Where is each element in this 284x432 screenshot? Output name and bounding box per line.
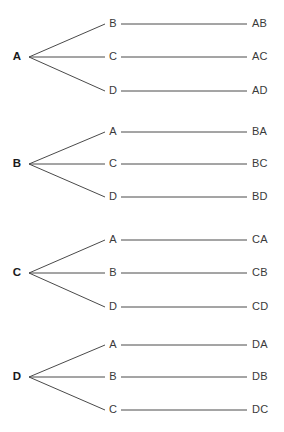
branch-line-b-d	[29, 164, 105, 197]
mid-node-ad: D	[103, 85, 123, 96]
mid-node-db: B	[103, 371, 123, 382]
mid-node-ba: A	[103, 126, 123, 137]
mid-node-da: A	[103, 339, 123, 350]
leaf-label-db: DB	[252, 371, 268, 382]
leaf-label-cd: CD	[252, 301, 268, 312]
leaf-label-ca: CA	[252, 234, 268, 245]
root-node-a: A	[0, 51, 21, 62]
mid-node-ab: B	[103, 18, 123, 29]
mid-node-bd: D	[103, 191, 123, 202]
tree-diagram: ABABCACDADBABACBCDBDCACABCBDCDDADABDBCDC	[0, 0, 284, 432]
branch-line-a-d	[29, 57, 105, 91]
tree-lines-layer	[0, 0, 284, 432]
mid-node-dc: C	[103, 404, 123, 415]
leaf-label-ab: AB	[252, 18, 267, 29]
branch-line-a-b	[29, 24, 105, 57]
mid-node-bc: C	[103, 158, 123, 169]
leaf-label-da: DA	[252, 339, 268, 350]
root-node-b: B	[0, 158, 21, 169]
branch-line-d-a	[29, 345, 105, 377]
leaf-label-bc: BC	[252, 158, 268, 169]
leaf-label-ad: AD	[252, 85, 268, 96]
root-node-c: C	[0, 267, 21, 278]
branch-line-d-c	[29, 377, 105, 410]
root-node-d: D	[0, 371, 21, 382]
branch-line-c-d	[29, 273, 105, 307]
leaf-label-dc: DC	[252, 404, 268, 415]
branch-line-c-a	[29, 240, 105, 273]
leaf-label-bd: BD	[252, 191, 268, 202]
mid-node-cd: D	[103, 301, 123, 312]
leaf-label-cb: CB	[252, 267, 268, 278]
leaf-label-ba: BA	[252, 126, 267, 137]
mid-node-cb: B	[103, 267, 123, 278]
mid-node-ac: C	[103, 51, 123, 62]
mid-node-ca: A	[103, 234, 123, 245]
leaf-label-ac: AC	[252, 51, 268, 62]
branch-line-b-a	[29, 132, 105, 164]
